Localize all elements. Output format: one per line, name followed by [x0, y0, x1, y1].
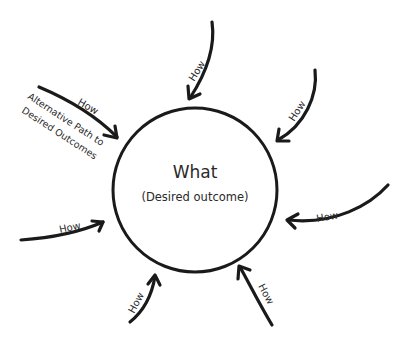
alternative-path-annotation: Alternative Path to Desired Outcomes — [20, 90, 106, 161]
arrow-top: How — [186, 22, 212, 99]
arrow-left-label: How — [58, 220, 82, 235]
arrow-bottom-left: How — [126, 275, 160, 322]
arrow-top-right-label: How — [286, 99, 307, 123]
arrow-bottom-left-label: How — [126, 291, 146, 315]
center-subtitle: (Desired outcome) — [141, 190, 248, 204]
arrow-bottom-right: How — [238, 266, 276, 325]
center-title: What — [173, 162, 218, 182]
how-what-diagram: What (Desired outcome) How How How How H… — [0, 0, 408, 345]
arrow-right: How — [287, 185, 388, 228]
arrow-right-label: How — [315, 209, 338, 224]
arrow-top-right: How — [277, 70, 315, 141]
arrow-left: How — [21, 220, 103, 240]
